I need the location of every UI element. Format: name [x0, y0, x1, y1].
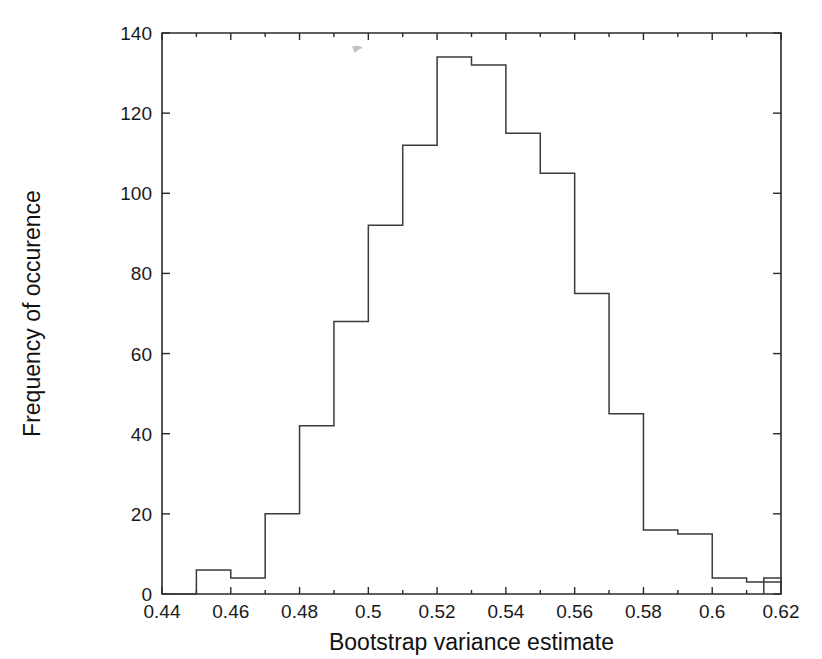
- x-tick-label: 0.62: [763, 601, 800, 622]
- x-axis-title: Bootstrap variance estimate: [329, 629, 614, 655]
- y-tick-label: 20: [131, 504, 152, 525]
- histogram-figure: 0.440.460.480.50.520.540.560.580.60.6202…: [0, 0, 822, 659]
- y-tick-label: 80: [131, 263, 152, 284]
- x-tick-label: 0.5: [355, 601, 381, 622]
- x-tick-label: 0.6: [699, 601, 725, 622]
- y-tick-label: 140: [120, 23, 152, 44]
- histogram-outline: [162, 57, 781, 594]
- x-tick-label: 0.46: [212, 601, 249, 622]
- x-tick-label: 0.48: [281, 601, 318, 622]
- y-tick-label: 60: [131, 344, 152, 365]
- scan-artifact: [352, 46, 363, 53]
- y-tick-label: 100: [120, 183, 152, 204]
- histogram-svg: 0.440.460.480.50.520.540.560.580.60.6202…: [0, 0, 822, 659]
- y-tick-label: 120: [120, 103, 152, 124]
- y-axis-title: Frequency of occurence: [19, 190, 45, 437]
- x-tick-label: 0.52: [419, 601, 456, 622]
- y-tick-label: 40: [131, 424, 152, 445]
- x-tick-label: 0.54: [487, 601, 524, 622]
- x-tick-label: 0.56: [556, 601, 593, 622]
- y-tick-label: 0: [141, 584, 152, 605]
- x-tick-label: 0.58: [625, 601, 662, 622]
- plot-frame: [162, 33, 781, 594]
- histogram-tail-bar: [764, 578, 781, 594]
